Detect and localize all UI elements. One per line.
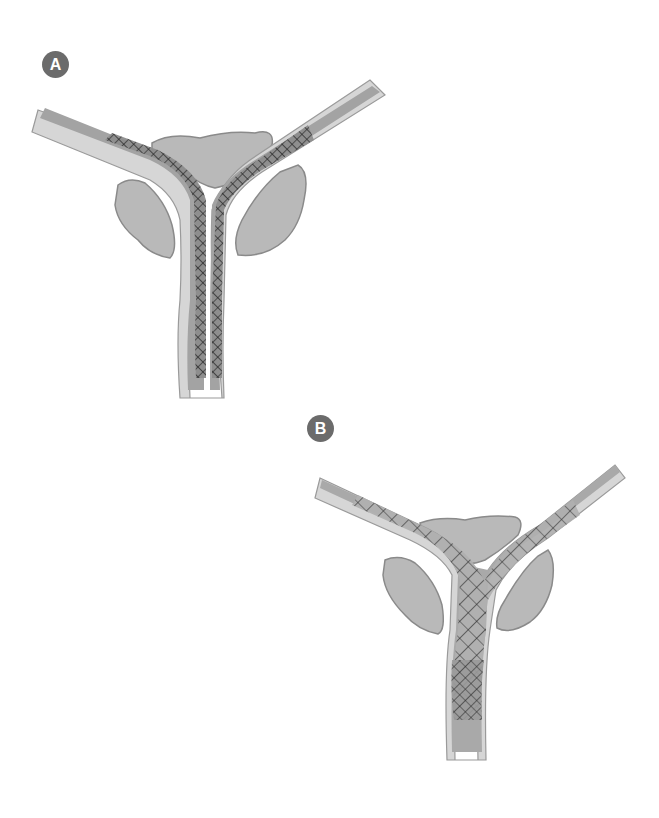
panel-b: B xyxy=(290,400,659,818)
tissue-left xyxy=(383,558,443,634)
bifurcation-side-by-side-stents-illustration xyxy=(0,0,420,410)
stent-distal-mesh xyxy=(451,660,484,720)
panel-a: A xyxy=(0,0,420,410)
bifurcation-stent-in-stent-illustration xyxy=(290,400,659,818)
